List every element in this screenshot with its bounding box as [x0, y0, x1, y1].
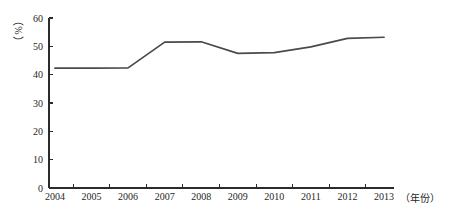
y-tick-label: 30: [33, 98, 43, 109]
y-tick-label: 0: [38, 183, 43, 194]
x-axis-ticks: 2004200520062007200820092010201120122013: [45, 184, 394, 202]
y-tick-label: 50: [33, 41, 43, 52]
x-tick-label: 2008: [191, 191, 211, 202]
y-tick-label: 20: [33, 126, 43, 137]
x-tick-label: 2009: [228, 191, 248, 202]
y-axis-ticks: 0102030405060: [33, 13, 53, 194]
y-tick-label: 10: [33, 154, 43, 165]
line-chart: 0102030405060 20042005200620072008200920…: [0, 0, 457, 217]
x-tick-label: 2011: [301, 191, 321, 202]
x-tick-label: 2013: [374, 191, 394, 202]
y-tick-label: 60: [33, 13, 43, 24]
x-tick-label: 2006: [118, 191, 138, 202]
x-tick-label: 2004: [45, 191, 65, 202]
data-series: [55, 37, 384, 68]
x-axis-caption: （年份）: [400, 192, 440, 204]
x-tick-label: 2007: [155, 191, 175, 202]
axes: [49, 18, 394, 188]
chart-page: （ % ） 0102030405060 20042005200620072008…: [0, 0, 457, 217]
x-tick-label: 2012: [337, 191, 357, 202]
series-line-path: [55, 37, 384, 68]
y-tick-label: 40: [33, 69, 43, 80]
x-tick-label: 2010: [264, 191, 284, 202]
x-tick-label: 2005: [82, 191, 102, 202]
